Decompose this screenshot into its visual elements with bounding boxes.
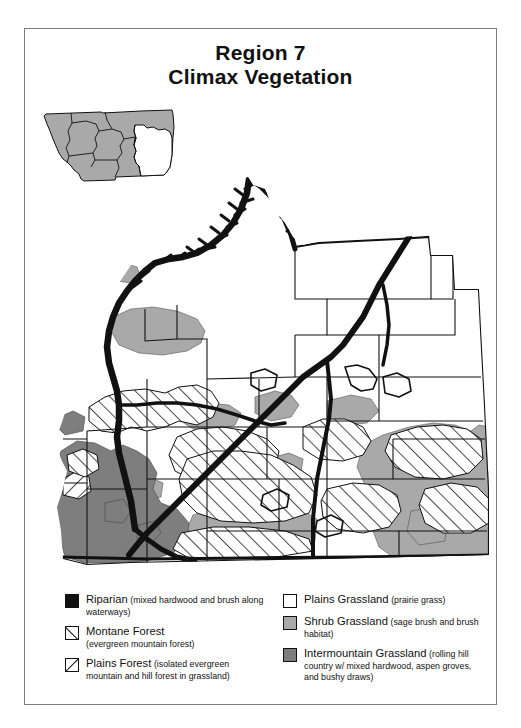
title-line-1: Region 7 xyxy=(25,41,496,65)
legend-label-montane-forest: Montane Forest xyxy=(86,625,164,637)
plains-forest-swatch-icon xyxy=(65,658,79,672)
legend-column-left: Riparian (mixed hardwood and brush along… xyxy=(65,593,265,688)
legend-item-montane-forest[interactable]: Montane Forest (evergreen mountain fores… xyxy=(65,625,265,650)
riparian-swatch-icon xyxy=(65,594,79,608)
legend-item-riparian[interactable]: Riparian (mixed hardwood and brush along… xyxy=(65,593,265,618)
main-region-map xyxy=(27,159,496,584)
page-frame: Region 7 Climax Vegetation xyxy=(24,28,497,705)
legend-item-plains-forest[interactable]: Plains Forest (isolated evergreen mounta… xyxy=(65,657,265,682)
legend-desc-plains-grassland: (prairie grass) xyxy=(391,595,445,605)
legend-item-plains-grassland[interactable]: Plains Grassland (prairie grass) xyxy=(283,593,483,608)
legend-label-plains-grassland: Plains Grassland xyxy=(304,593,389,605)
title-line-2: Climax Vegetation xyxy=(25,65,496,89)
legend-label-intermountain-grassland: Intermountain Grassland xyxy=(304,647,427,659)
legend-desc-montane-forest: (evergreen mountain forest) xyxy=(86,639,195,649)
page-title: Region 7 Climax Vegetation xyxy=(25,41,496,88)
plains-grassland-swatch-icon xyxy=(283,594,297,608)
intermountain-grassland-swatch-icon xyxy=(283,648,297,662)
legend-column-right: Plains Grassland (prairie grass) Shrub G… xyxy=(283,593,483,688)
montane-forest-swatch-icon xyxy=(65,626,79,640)
legend-item-intermountain-grassland[interactable]: Intermountain Grassland (rolling hill co… xyxy=(283,647,483,683)
legend-label-shrub-grassland: Shrub Grassland xyxy=(304,615,388,627)
vegetation-legend: Riparian (mixed hardwood and brush along… xyxy=(65,593,485,688)
shrub-grassland-swatch-icon xyxy=(283,616,297,630)
legend-label-riparian: Riparian xyxy=(86,593,128,605)
legend-item-shrub-grassland[interactable]: Shrub Grassland (sage brush and brush ha… xyxy=(283,615,483,640)
legend-label-plains-forest: Plains Forest xyxy=(86,657,151,669)
